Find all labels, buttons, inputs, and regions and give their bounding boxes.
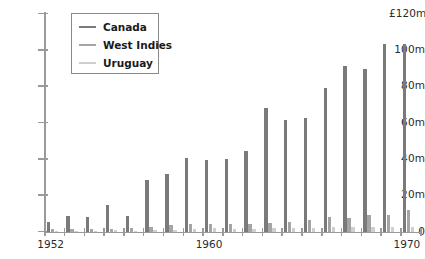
bar-uruguay-1964 bbox=[292, 228, 295, 232]
bar-uruguay-1968 bbox=[371, 227, 374, 232]
bar-west-indies-1958 bbox=[169, 225, 172, 232]
bar-west-indies-1966 bbox=[328, 217, 331, 232]
legend-swatch-uruguay bbox=[79, 62, 96, 65]
bar-west-indies-1965 bbox=[308, 220, 311, 232]
bar-west-indies-1956 bbox=[130, 228, 133, 232]
legend: Canada West Indies Uruguay bbox=[71, 13, 159, 74]
bar-west-indies-1968 bbox=[367, 215, 370, 232]
bar-uruguay-1960 bbox=[213, 228, 216, 232]
bar-canada-1956 bbox=[126, 216, 129, 232]
bar-group-1961 bbox=[225, 14, 236, 232]
bar-west-indies-1961 bbox=[229, 224, 232, 232]
bar-west-indies-1957 bbox=[149, 227, 152, 232]
bar-canada-1970 bbox=[403, 44, 406, 232]
bar-uruguay-1954 bbox=[94, 231, 97, 232]
bar-group-1960 bbox=[205, 14, 216, 232]
bar-chart: 020m40m60m80m100m£120m 195219601970 Cana… bbox=[0, 0, 425, 259]
bar-canada-1954 bbox=[86, 217, 89, 232]
bar-uruguay-1961 bbox=[233, 229, 236, 232]
bar-canada-1962 bbox=[244, 151, 247, 232]
bar-uruguay-1970 bbox=[411, 227, 414, 232]
bar-west-indies-1952 bbox=[51, 229, 54, 232]
bar-west-indies-1962 bbox=[248, 224, 251, 232]
bar-west-indies-1954 bbox=[90, 229, 93, 232]
bar-uruguay-1952 bbox=[55, 231, 58, 232]
bar-canada-1961 bbox=[225, 159, 228, 232]
x-tick-label-1970: 1970 bbox=[394, 238, 421, 250]
bar-uruguay-1955 bbox=[114, 230, 117, 232]
bar-canada-1963 bbox=[264, 108, 267, 232]
bar-uruguay-1963 bbox=[272, 228, 275, 232]
bar-west-indies-1967 bbox=[347, 218, 350, 232]
bar-uruguay-1956 bbox=[134, 231, 137, 232]
bar-uruguay-1967 bbox=[351, 227, 354, 232]
bar-canada-1969 bbox=[383, 44, 386, 232]
bar-uruguay-1959 bbox=[193, 229, 196, 232]
x-tick-label-1960: 1960 bbox=[196, 238, 223, 250]
bar-uruguay-1966 bbox=[332, 227, 335, 232]
bar-group-1966 bbox=[324, 14, 335, 232]
bar-uruguay-1965 bbox=[312, 228, 315, 232]
bar-uruguay-1962 bbox=[252, 229, 255, 232]
legend-item-canada: Canada bbox=[79, 20, 147, 34]
bar-canada-1952 bbox=[47, 222, 50, 232]
bar-canada-1965 bbox=[304, 118, 307, 232]
x-tick-label-1952: 1952 bbox=[37, 238, 64, 250]
bar-canada-1968 bbox=[363, 69, 366, 233]
bar-canada-1964 bbox=[284, 120, 287, 232]
bar-canada-1953 bbox=[66, 216, 69, 232]
bar-west-indies-1969 bbox=[387, 215, 390, 232]
bar-canada-1958 bbox=[165, 174, 168, 232]
bar-canada-1967 bbox=[343, 66, 346, 232]
bar-uruguay-1958 bbox=[173, 230, 176, 232]
bar-canada-1959 bbox=[185, 158, 188, 232]
bar-canada-1957 bbox=[145, 180, 148, 232]
bar-west-indies-1959 bbox=[189, 224, 192, 232]
bar-group-1968 bbox=[363, 14, 374, 232]
bar-group-1969 bbox=[383, 14, 394, 232]
bar-west-indies-1960 bbox=[209, 224, 212, 232]
bar-west-indies-1964 bbox=[288, 222, 291, 232]
legend-swatch-west-indies bbox=[79, 44, 96, 47]
legend-item-west-indies: West Indies bbox=[79, 38, 172, 52]
legend-item-uruguay: Uruguay bbox=[79, 56, 153, 70]
bar-uruguay-1969 bbox=[391, 227, 394, 232]
legend-label-west-indies: West Indies bbox=[103, 39, 172, 51]
bar-uruguay-1953 bbox=[74, 231, 77, 232]
bar-west-indies-1963 bbox=[268, 223, 271, 232]
bar-canada-1955 bbox=[106, 205, 109, 232]
legend-label-canada: Canada bbox=[103, 21, 147, 33]
bar-group-1952 bbox=[47, 14, 58, 232]
legend-label-uruguay: Uruguay bbox=[103, 57, 153, 69]
bar-group-1963 bbox=[264, 14, 275, 232]
bar-group-1964 bbox=[284, 14, 295, 232]
bar-group-1959 bbox=[185, 14, 196, 232]
bar-group-1970 bbox=[403, 14, 414, 232]
bar-west-indies-1955 bbox=[110, 229, 113, 232]
bar-group-1962 bbox=[244, 14, 255, 232]
bar-canada-1966 bbox=[324, 88, 327, 232]
bar-west-indies-1953 bbox=[70, 229, 73, 232]
bar-group-1967 bbox=[343, 14, 354, 232]
bar-group-1965 bbox=[304, 14, 315, 232]
legend-swatch-canada bbox=[79, 26, 96, 29]
x-axis-end-tick bbox=[420, 228, 422, 236]
bar-west-indies-1970 bbox=[407, 210, 410, 232]
bar-canada-1960 bbox=[205, 160, 208, 232]
bar-uruguay-1957 bbox=[153, 230, 156, 232]
